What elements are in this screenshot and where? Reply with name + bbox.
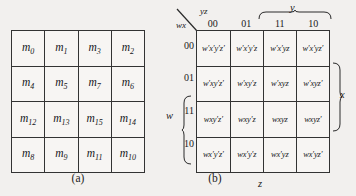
kmap-b-cell: w′x′yz′ xyxy=(296,31,329,67)
kmap-a-cell: m12 xyxy=(12,102,45,138)
kmap-a-cell: m2 xyxy=(111,31,144,67)
minterm-label: m xyxy=(88,41,96,53)
kmap-b-cell: wx′yz′ xyxy=(296,137,329,173)
minterm-index: 9 xyxy=(64,153,68,162)
minterm-label: m xyxy=(120,147,128,159)
figure-caption-b: (b) xyxy=(185,172,245,184)
minterm-label: m xyxy=(86,112,94,124)
minterm-index: 10 xyxy=(128,153,136,162)
minterm-index: 1 xyxy=(64,47,68,56)
kmap-b-cell: wxy′z′ xyxy=(197,102,231,138)
kmap-b-cell: w′xyz xyxy=(263,66,296,102)
group-brace-w xyxy=(182,95,192,165)
kmap-a-cell: m9 xyxy=(45,137,78,173)
kmap-b-cell: w′x′y′z xyxy=(230,31,263,67)
minterm-index: 3 xyxy=(97,47,101,56)
kmap-b-cell: w′x′yz xyxy=(263,31,296,67)
kmap-b-cell: w′xy′z′ xyxy=(197,66,231,102)
kmap-minterm-table: m0 m1 m3 m2 m4 m5 m7 m6 m12 m13 m15 m14 … xyxy=(11,30,145,173)
kmap-b-cell: wxyz xyxy=(263,102,296,138)
kmap-b-cell: w′x′y′z′ xyxy=(197,31,231,67)
minterm-index: 4 xyxy=(30,82,34,91)
kmap-a-cell: m8 xyxy=(12,137,45,173)
group-label-y: y xyxy=(290,2,295,13)
group-label-z: z xyxy=(258,178,262,189)
kmap-a-cell: m14 xyxy=(111,102,144,138)
table-row: wx′y′z′ wx′y′z wx′yz wx′yz′ xyxy=(197,137,330,173)
minterm-label: m xyxy=(55,41,63,53)
kmap-a-cell: m13 xyxy=(45,102,78,138)
kmap-a-cell: m3 xyxy=(78,31,111,67)
table-row: w′x′y′z′ w′x′y′z w′x′yz w′x′yz′ xyxy=(197,31,330,67)
kmap-a-cell: m7 xyxy=(78,66,111,102)
figure-caption-a: (a) xyxy=(48,172,108,184)
kmap-b-cell: wx′y′z′ xyxy=(197,137,231,173)
minterm-label: m xyxy=(122,76,130,88)
kmap-col-header-00: 00 xyxy=(196,18,230,29)
group-label-w: w xyxy=(166,110,173,121)
kmap-literal-table: w′x′y′z′ w′x′y′z w′x′yz w′x′yz′ w′xy′z′ … xyxy=(196,30,330,173)
kmap-a-cell: m1 xyxy=(45,31,78,67)
kmap-b-cell: wx′yz xyxy=(263,137,296,173)
minterm-index: 8 xyxy=(30,153,34,162)
minterm-label: m xyxy=(55,76,63,88)
table-row: w′xy′z′ w′xy′z w′xyz w′xyz′ xyxy=(197,66,330,102)
table-row: m4 m5 m7 m6 xyxy=(12,66,145,102)
group-brace-y xyxy=(258,10,332,20)
minterm-label: m xyxy=(88,76,96,88)
corner-col-variables: yz xyxy=(200,6,208,16)
minterm-index: 7 xyxy=(97,82,101,91)
kmap-a-cell: m15 xyxy=(78,102,111,138)
kmap-b-cell: wx′y′z xyxy=(230,137,263,173)
minterm-index: 5 xyxy=(64,82,68,91)
group-label-x: x xyxy=(340,89,345,100)
kmap-row-header-00: 00 xyxy=(174,40,194,51)
kmap-a-cell: m5 xyxy=(45,66,78,102)
corner-row-variables: wx xyxy=(176,20,186,30)
minterm-index: 11 xyxy=(95,153,102,162)
minterm-label: m xyxy=(53,112,61,124)
minterm-label: m xyxy=(87,147,95,159)
kmap-b-cell: w′xyz′ xyxy=(296,66,329,102)
table-row: m12 m13 m15 m14 xyxy=(12,102,145,138)
kmap-b-cell: w′xy′z xyxy=(230,66,263,102)
minterm-index: 12 xyxy=(28,118,36,127)
minterm-index: 15 xyxy=(95,118,103,127)
kmap-b-cell: wxy′z xyxy=(230,102,263,138)
minterm-index: 2 xyxy=(130,47,134,56)
kmap-row-header-01: 01 xyxy=(174,72,194,83)
kmap-a-cell: m10 xyxy=(111,137,144,173)
minterm-index: 6 xyxy=(130,82,134,91)
table-row: wxy′z′ wxy′z wxyz wxyz′ xyxy=(197,102,330,138)
kmap-a-cell: m0 xyxy=(12,31,45,67)
minterm-index: 13 xyxy=(62,118,70,127)
kmap-a-cell: m6 xyxy=(111,66,144,102)
minterm-index: 0 xyxy=(30,47,34,56)
table-row: m0 m1 m3 m2 xyxy=(12,31,145,67)
kmap-b-cell: wxyz′ xyxy=(296,102,329,138)
minterm-label: m xyxy=(122,41,130,53)
minterm-index: 14 xyxy=(128,118,136,127)
minterm-label: m xyxy=(55,147,63,159)
kmap-a-cell: m4 xyxy=(12,66,45,102)
minterm-label: m xyxy=(120,112,128,124)
kmap-a-cell: m11 xyxy=(78,137,111,173)
table-row: m8 m9 m11 m10 xyxy=(12,137,145,173)
